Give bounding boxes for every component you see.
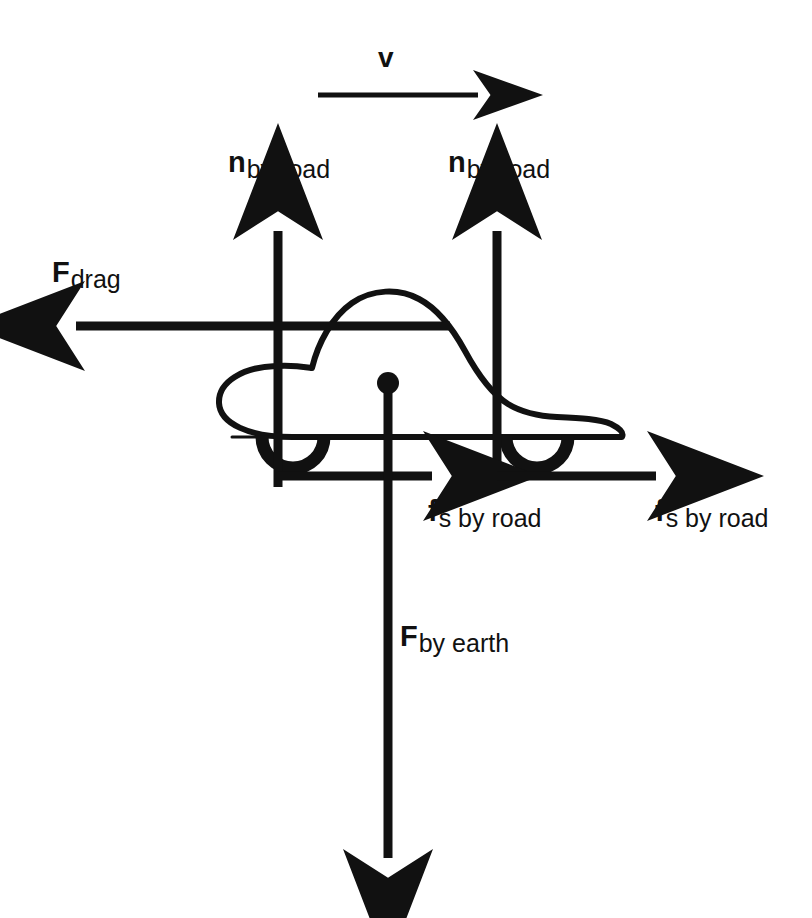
velocity-symbol: v (378, 42, 394, 73)
gravity-force-label: Fby earth (400, 622, 508, 651)
normal-rear-subscript: by road (467, 155, 550, 183)
friction-left-subscript: s by road (439, 504, 542, 532)
friction-force-right-label: fs by road (655, 497, 768, 526)
normal-front-subscript: by road (247, 155, 330, 183)
car-wheel-rear (506, 437, 568, 468)
normal-force-front-label: nby road (228, 148, 329, 177)
normal-front-symbol: n (228, 146, 246, 178)
diagram-canvas (0, 0, 812, 918)
friction-right-symbol: f (655, 495, 665, 527)
normal-force-rear-label: nby road (448, 148, 549, 177)
car-wheel-front (262, 437, 324, 468)
velocity-label: v (378, 44, 394, 72)
friction-force-left-label: fs by road (428, 497, 541, 526)
free-body-diagram: v nby road nby road Fdrag fs by road fs … (0, 0, 812, 918)
friction-left-symbol: f (428, 495, 438, 527)
drag-subscript: drag (71, 265, 121, 293)
gravity-symbol: F (400, 620, 418, 652)
gravity-subscript: by earth (419, 629, 509, 657)
drag-symbol: F (52, 256, 70, 288)
center-of-mass-dot (377, 372, 399, 394)
drag-force-label: Fdrag (52, 258, 120, 287)
friction-right-subscript: s by road (666, 504, 769, 532)
normal-rear-symbol: n (448, 146, 466, 178)
